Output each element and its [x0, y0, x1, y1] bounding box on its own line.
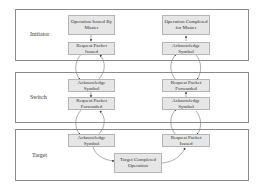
node-request-forwarded-right: Request Packet Forwarded [162, 79, 210, 92]
node-operation-completed: Operation Completed for Master [162, 15, 210, 35]
node-request-packet-issued-initiator: Request Packet Issued [68, 42, 115, 55]
node-target-completed: Target Completed Operation [114, 153, 162, 173]
node-request-forwarded-left: Request Packet Forwarded [68, 97, 115, 110]
node-acknowledge-switch-right: Acknowledge Symbol [162, 97, 210, 110]
node-acknowledge-switch-left: Acknowledge Symbol [68, 79, 115, 92]
node-acknowledge-initiator: Acknowledge Symbol [162, 42, 210, 55]
node-request-packet-issued-target: Request Packet Issued [162, 134, 210, 147]
node-acknowledge-target: Acknowledge Symbol [68, 134, 115, 147]
node-operation-issued: Operation Issued By Master [68, 15, 115, 35]
